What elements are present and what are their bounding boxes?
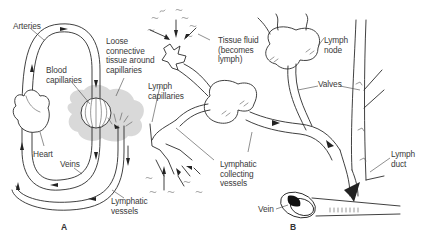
label-lymph-duct: Lymph duct: [391, 150, 415, 169]
label-arteries: Arteries: [13, 22, 41, 32]
label-blood-capillaries: Blood capillaries: [46, 66, 82, 85]
label-heart: Heart: [33, 150, 53, 160]
label-lymph-node: Lymph node: [324, 36, 348, 55]
panel-label-a: A: [61, 222, 67, 232]
label-lymphatic-collecting-vessels: Lymphatic collecting vessels: [220, 160, 257, 189]
label-valves: Valves: [318, 80, 342, 90]
label-vein: Vein: [258, 205, 274, 215]
lymphatic-diagram: Arteries Loose connective tissue around …: [0, 0, 424, 241]
label-lymph-capillaries: Lymph capillaries: [148, 82, 184, 101]
heart-shape: [13, 90, 49, 132]
panel-label-b: B: [290, 222, 296, 232]
label-veins: Veins: [60, 160, 80, 170]
lymph-node-center: [204, 80, 256, 123]
lymph-node-upper: [266, 27, 320, 69]
label-loose-connective-tissue: Loose connective tissue around capillari…: [106, 37, 155, 75]
label-tissue-fluid: Tissue fluid (becomes lymph): [218, 36, 258, 65]
label-lymphatic-vessels: Lymphatic vessels: [111, 197, 148, 216]
diagram-artwork: [0, 0, 424, 241]
